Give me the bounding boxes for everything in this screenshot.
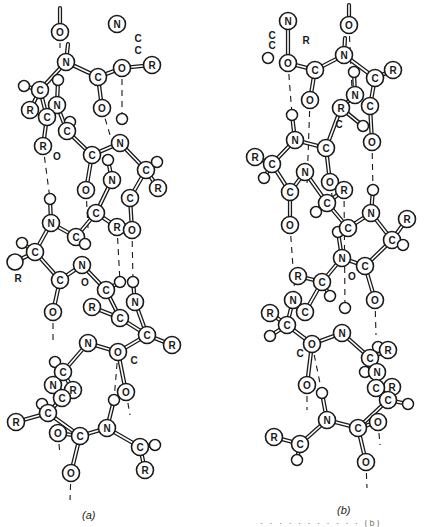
- svg-text:O: O: [371, 295, 379, 306]
- atom-label: O: [53, 151, 61, 162]
- atom-label: C: [296, 348, 303, 359]
- svg-text:C: C: [286, 187, 293, 198]
- svg-text:O: O: [286, 220, 294, 231]
- svg-text:N: N: [291, 135, 298, 146]
- svg-text:R: R: [154, 183, 162, 194]
- atom-n: N: [58, 54, 75, 71]
- helix-figure: ONNCORCRNCOCRCNCNROCCNROCCNCCNROCCNROCNR…: [0, 0, 425, 527]
- atoms-a: ONNCORCRNCOCRCNCNROCCNROCCNCCNROCCNROCNR…: [7, 16, 181, 482]
- svg-text:N: N: [323, 415, 330, 426]
- panel-label-b: (b): [337, 504, 351, 516]
- atom-hydrogen: [19, 81, 30, 92]
- svg-text:O: O: [118, 63, 126, 74]
- atom-hydrogen: [349, 67, 360, 78]
- atom-hydrogen: [128, 277, 139, 288]
- svg-text:N: N: [116, 138, 123, 149]
- atom-o: O: [118, 384, 135, 401]
- atom-hydrogen: [265, 331, 276, 342]
- svg-text:C: C: [388, 235, 395, 246]
- svg-text:O: O: [56, 27, 64, 38]
- svg-text:C: C: [59, 367, 66, 378]
- atom-r: R: [137, 462, 154, 479]
- svg-text:O: O: [128, 225, 136, 236]
- svg-text:C: C: [143, 330, 150, 341]
- atom-r: R: [336, 182, 353, 199]
- atom-label: C: [130, 355, 137, 366]
- atom-r: R: [8, 414, 25, 431]
- atom-r: R: [164, 337, 181, 354]
- svg-text:C: C: [102, 285, 109, 296]
- atom-label: R: [302, 35, 310, 46]
- svg-text:O: O: [362, 457, 370, 468]
- svg-text:C: C: [344, 223, 351, 234]
- atom-c: C: [292, 436, 309, 453]
- atom-c: C: [88, 205, 105, 222]
- atom-hydrogen: [150, 440, 161, 451]
- atom-hydrogen: [17, 238, 28, 249]
- svg-text:N: N: [351, 90, 358, 101]
- atom-o: O: [299, 377, 316, 394]
- atom-c: C: [297, 304, 314, 321]
- svg-text:C: C: [296, 439, 303, 450]
- svg-text:C: C: [366, 101, 373, 112]
- atom-n: N: [287, 132, 304, 149]
- atom-n: N: [112, 135, 129, 152]
- svg-text:O: O: [67, 468, 75, 479]
- atom-c: C: [367, 70, 384, 87]
- svg-text:C: C: [322, 143, 329, 154]
- svg-text:N: N: [367, 208, 374, 219]
- atom-n: N: [109, 16, 126, 33]
- atom-o: O: [78, 182, 95, 199]
- atom-c: C: [39, 109, 56, 126]
- atom-c: C: [98, 282, 115, 299]
- svg-text:O: O: [82, 185, 90, 196]
- svg-text:N: N: [373, 367, 380, 378]
- svg-text:N: N: [103, 423, 110, 434]
- atom-hydrogen: [340, 303, 351, 314]
- atom-label: O: [348, 271, 356, 282]
- svg-text:O: O: [308, 339, 316, 350]
- svg-text:C: C: [366, 353, 373, 364]
- svg-text:C: C: [126, 193, 133, 204]
- atom-r: R: [262, 305, 279, 322]
- atom-hydrogen: [287, 110, 298, 121]
- atom-r: R: [144, 57, 161, 74]
- atom-c: C: [27, 244, 44, 261]
- atom-o: O: [282, 217, 299, 234]
- atom-label: C: [134, 33, 141, 44]
- svg-text:N: N: [78, 260, 85, 271]
- atom-o: O: [367, 292, 384, 309]
- atom-c: C: [340, 220, 357, 237]
- svg-text:R: R: [148, 60, 156, 71]
- svg-text:R: R: [389, 65, 397, 76]
- atom-c: C: [362, 98, 379, 115]
- svg-text:R: R: [12, 417, 20, 428]
- atom-o: O: [364, 134, 381, 151]
- svg-text:C: C: [92, 208, 99, 219]
- atom-hydrogen: [368, 185, 379, 196]
- panel-b-helix: NONOCRCNOCRNOCRCNORCCNROCCNCRCNOCRCNORCN…: [247, 5, 416, 516]
- atom-o: O: [341, 17, 358, 34]
- svg-text:O: O: [303, 380, 311, 391]
- svg-text:C: C: [43, 112, 50, 123]
- atom-hydrogen: [263, 53, 274, 64]
- atom-n: N: [80, 335, 97, 352]
- atom-c: C: [282, 184, 299, 201]
- atom-n: N: [297, 164, 314, 181]
- atom-label: C: [268, 40, 275, 51]
- atom-n: N: [334, 325, 351, 342]
- atom-r: R: [35, 138, 52, 155]
- atom-o: O: [304, 336, 321, 353]
- atom-c: C: [380, 392, 397, 409]
- svg-text:R: R: [337, 103, 345, 114]
- atom-c: C: [72, 428, 89, 445]
- svg-text:C: C: [116, 313, 123, 324]
- svg-text:N: N: [338, 328, 345, 339]
- svg-text:C: C: [384, 395, 391, 406]
- atom-r: R: [150, 180, 167, 197]
- caption-fragment-text: · · · · · · · · · · · (b): [260, 520, 425, 527]
- atom-r: R: [247, 149, 264, 166]
- atom-hydrogen: [403, 399, 414, 410]
- svg-text:R: R: [403, 214, 411, 225]
- svg-text:R: R: [340, 185, 348, 196]
